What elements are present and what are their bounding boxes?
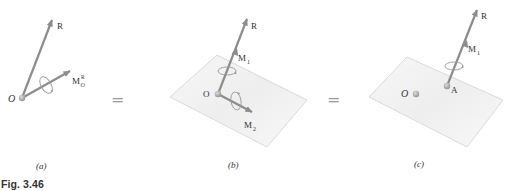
point-o-label: O bbox=[401, 88, 408, 99]
panel-b: O R M 1 M 2 (b) bbox=[170, 19, 307, 170]
equals-sign: = bbox=[327, 90, 340, 109]
wrench-reduction-diagram: O R M R O (a) = O R M 1 M 2 (b) bbox=[0, 0, 509, 191]
point-a-label: A bbox=[451, 85, 458, 95]
vector-m1-label: M bbox=[238, 53, 246, 63]
panel-a: O R M R O (a) bbox=[8, 20, 86, 171]
panel-b-label: (b) bbox=[228, 160, 239, 170]
vector-r-label: R bbox=[251, 21, 257, 31]
panel-a-label: (a) bbox=[36, 161, 47, 171]
point-o bbox=[215, 91, 221, 97]
point-o bbox=[413, 91, 419, 97]
plane bbox=[170, 55, 307, 147]
vector-m2-subscript: 2 bbox=[253, 126, 256, 132]
vector-m1-label: M bbox=[468, 44, 476, 54]
vector-m-o-r-label: M bbox=[72, 76, 80, 86]
vector-m1-subscript: 1 bbox=[247, 59, 250, 65]
vector-r-label: R bbox=[57, 21, 63, 31]
vector-m-o-r-subscript: O bbox=[81, 82, 86, 88]
panel-c-label: (c) bbox=[414, 159, 424, 169]
point-a bbox=[444, 83, 450, 89]
vector-m-o-r-superscript: R bbox=[81, 74, 85, 80]
panel-c: A O R M 1 (c) bbox=[369, 10, 503, 169]
point-o-label: O bbox=[8, 93, 15, 104]
vector-m-o-r-arrow bbox=[22, 71, 70, 98]
plane bbox=[369, 57, 503, 147]
figure-caption: Fig. 3.46 bbox=[1, 178, 44, 190]
vector-r-arrow bbox=[22, 20, 52, 98]
vector-m1-subscript: 1 bbox=[477, 50, 480, 56]
point-o-label: O bbox=[203, 89, 210, 99]
equals-sign: = bbox=[111, 90, 124, 109]
point-o bbox=[19, 95, 25, 101]
vector-r-label: R bbox=[481, 11, 487, 21]
vector-m2-label: M bbox=[244, 120, 252, 130]
